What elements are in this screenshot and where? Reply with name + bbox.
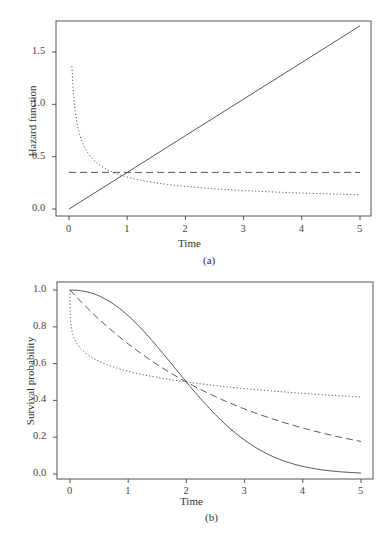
- y-tick-label: 1.5: [32, 45, 45, 56]
- x-tick-label: 3: [241, 223, 246, 234]
- x-axis-label-a: Time: [178, 237, 201, 249]
- y-tick-label: 0.0: [32, 202, 45, 213]
- series-line-dotted: [72, 66, 360, 195]
- y-tick-label: 0.0: [33, 467, 46, 478]
- figure-canvas: [0, 0, 391, 548]
- plot-frame: [57, 282, 373, 479]
- x-tick-label: 0: [67, 485, 72, 496]
- x-axis-label-b: Time: [180, 495, 203, 507]
- hazard-plot: [52, 21, 371, 220]
- series-line-solid: [69, 26, 360, 209]
- y-axis-label-a: Hazard function: [26, 71, 38, 171]
- x-tick-label: 3: [242, 485, 247, 496]
- x-tick-label: 4: [300, 485, 305, 496]
- x-tick-label: 1: [124, 223, 129, 234]
- series-line-dotted: [70, 290, 361, 397]
- x-tick-label: 5: [357, 223, 362, 234]
- series-line-solid: [70, 290, 361, 473]
- x-tick-label: 5: [358, 485, 363, 496]
- x-tick-label: 4: [299, 223, 304, 234]
- survival-plot: [53, 282, 373, 483]
- y-axis-label-b: Survival probability: [24, 326, 36, 436]
- panel-label-b: (b): [205, 511, 218, 523]
- y-tick-label: 1.0: [33, 283, 46, 294]
- panel-label-a: (a): [203, 254, 215, 266]
- x-tick-label: 2: [182, 223, 187, 234]
- series-line-dashed: [70, 290, 361, 442]
- x-tick-label: 1: [125, 485, 130, 496]
- x-tick-label: 0: [66, 223, 71, 234]
